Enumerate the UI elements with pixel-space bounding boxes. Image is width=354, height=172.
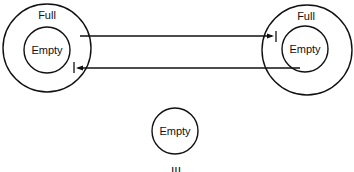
arrow-right-head [267, 34, 274, 39]
right-empty-label: Empty [289, 43, 320, 55]
bottom-empty-label: Empty [159, 125, 190, 137]
left-empty-label: Empty [31, 44, 62, 56]
left-full-label: Full [38, 9, 56, 21]
arrow-left-head [76, 66, 83, 71]
diagram-canvas [0, 0, 354, 172]
right-full-label: Full [297, 10, 315, 22]
caption-label: III [171, 165, 181, 172]
